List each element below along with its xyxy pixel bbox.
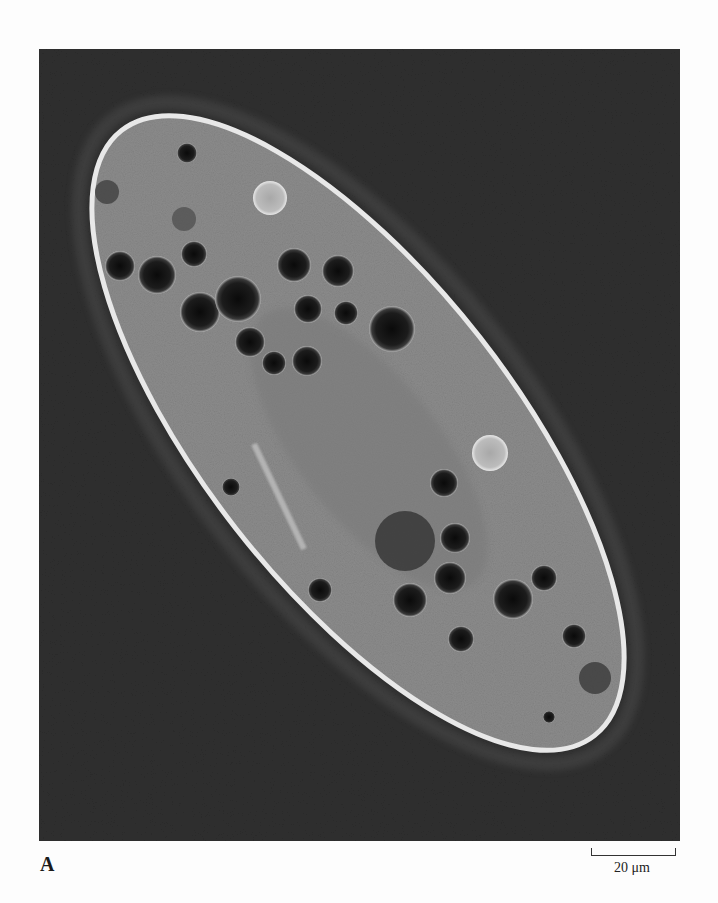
scale-bar [591,848,676,856]
paramecium-image [39,49,680,841]
contractile-vacuole-posterior [472,435,508,471]
scale-bar-label: 20 μm [614,860,650,876]
micrograph-panel [39,49,680,841]
contractile-vacuole-anterior [253,181,287,215]
panel-label: A [40,853,54,876]
